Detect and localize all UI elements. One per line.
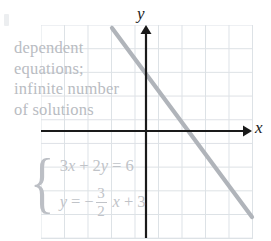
eq2-var-x: x	[113, 192, 120, 212]
eq1-coef-y: 2	[93, 156, 101, 176]
equation-row-1: 3 x + 2 y = 6	[60, 148, 146, 184]
eq1-var-y: y	[101, 156, 108, 176]
annotation-line-2: equations;	[14, 59, 154, 80]
eq2-equals: =	[71, 192, 80, 212]
eq2-constant: 3	[137, 192, 145, 212]
eq2-frac-denominator: 2	[97, 203, 105, 219]
equations-stack: 3 x + 2 y = 6 y = − 3	[60, 148, 146, 220]
eq2-var-y: y	[60, 192, 67, 212]
eq1-equals: =	[112, 156, 121, 176]
equation-row-2: y = − 3 2 x + 3	[60, 184, 146, 220]
eq2-plus: +	[124, 192, 133, 212]
eq2-fraction: 3 2	[96, 186, 107, 219]
x-axis-label: x	[255, 118, 263, 138]
eq1-coef-x: 3	[60, 156, 68, 176]
annotation-line-3: infinite number	[14, 79, 154, 100]
annotation-line-4: of solutions	[14, 100, 154, 121]
eq1-plus: +	[79, 156, 88, 176]
system-of-equations: { 3 x + 2 y = 6 y = −	[26, 148, 145, 220]
graph-figure: y x dependent equations; infinite number…	[0, 0, 271, 241]
y-axis-label: y	[137, 4, 145, 24]
eq2-minus: −	[84, 192, 93, 212]
annotation-text-block: dependent equations; infinite number of …	[14, 38, 154, 120]
eq2-frac-numerator: 3	[97, 186, 105, 202]
annotation-line-1: dependent	[14, 38, 154, 59]
eq1-constant: 6	[125, 156, 133, 176]
eq1-var-x: x	[68, 156, 75, 176]
y-axis-arrowhead	[141, 25, 152, 34]
x-axis-arrowhead	[243, 126, 252, 137]
